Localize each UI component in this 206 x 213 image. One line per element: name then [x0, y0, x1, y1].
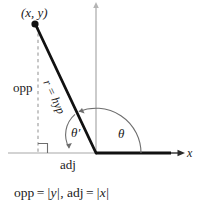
opposite-side-label: opp — [13, 81, 33, 94]
point-coordinate-label: (x, y) — [21, 6, 48, 19]
trigonometry-reference-angle-figure: (x, y) opp adj r = hyp θ θ′ x opp=|y|, a… — [0, 0, 206, 213]
caption-separator: , — [60, 185, 63, 200]
point-marker — [31, 20, 38, 27]
theta-arc-arrowhead-icon — [79, 108, 85, 114]
caption-opp-equals: = — [34, 185, 47, 200]
right-angle-marker-icon — [38, 144, 48, 154]
figure-caption: opp=|y|, adj=|x| — [14, 186, 110, 200]
y-axis-arrowhead-icon — [93, 2, 99, 8]
reference-angle-label: θ′ — [71, 126, 80, 139]
x-axis-label: x — [187, 147, 192, 159]
caption-opp-value: y — [51, 185, 57, 200]
point-coordinate-text: (x, y) — [21, 5, 48, 20]
caption-adj-name: adj — [67, 185, 84, 200]
caption-adj-value: x — [100, 185, 106, 200]
caption-adj-bar-right: | — [106, 185, 110, 200]
caption-opp-name: opp — [14, 185, 34, 200]
adjacent-side-label: adj — [60, 158, 76, 171]
figure-canvas — [0, 0, 206, 213]
theta-angle-label: θ — [118, 127, 124, 140]
caption-adj-equals: = — [84, 185, 97, 200]
x-axis-arrowhead-icon — [178, 150, 186, 157]
theta-angle-arc — [79, 108, 141, 153]
